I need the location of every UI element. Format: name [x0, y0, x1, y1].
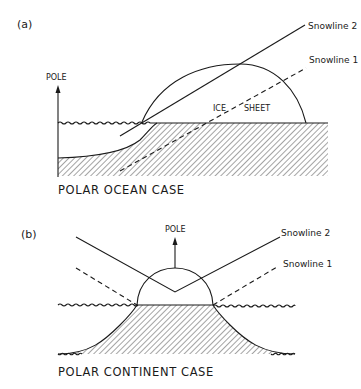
- panel-a-label: (a): [17, 18, 32, 31]
- panel-a: (a) POLE Snowline 2 Snowline 1 ICE SHEET…: [17, 18, 358, 197]
- panel-a-snowline-1-label: Snowline 1: [309, 55, 358, 65]
- panel-b-snowline-1-left: [76, 268, 137, 305]
- panel-a-ice-label: ICE: [213, 104, 226, 113]
- pole-arrow-icon: [173, 237, 178, 268]
- panel-b: (b) POLE Snowline 2 Snowline 1 POLAR CON…: [21, 225, 332, 379]
- panel-b-ocean-surface-right: [213, 305, 295, 307]
- panel-a-land-hatch: [58, 123, 328, 176]
- panel-a-ice-sheet: [142, 64, 306, 123]
- panel-b-caption: POLAR CONTINENT CASE: [58, 365, 214, 379]
- panel-b-snowline-2-label: Snowline 2: [281, 228, 330, 238]
- panel-a-caption: POLAR OCEAN CASE: [58, 183, 185, 197]
- panel-a-pole-label: POLE: [46, 73, 67, 82]
- panel-b-snowline-1-label: Snowline 1: [283, 259, 332, 269]
- panel-a-sheet-label: SHEET: [244, 104, 270, 113]
- panel-b-label: (b): [21, 228, 37, 241]
- panel-b-snowline-2: [76, 237, 280, 292]
- panel-b-pole-label: POLE: [165, 225, 186, 234]
- panel-a-snowline-2-label: Snowline 2: [308, 21, 357, 31]
- panel-b-snowline-1-right: [213, 267, 277, 305]
- ice-sheet-diagram: (a) POLE Snowline 2 Snowline 1 ICE SHEET…: [0, 0, 361, 389]
- panel-a-ocean-surface: [58, 122, 150, 124]
- panel-b-ice-dome: [137, 268, 213, 305]
- panel-b-ocean-surface-left: [58, 304, 138, 306]
